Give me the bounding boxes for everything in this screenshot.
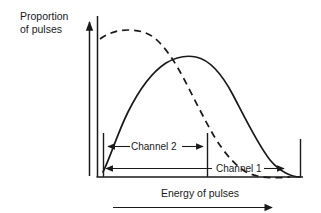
- channel-1-label: Channel 1: [216, 163, 262, 174]
- distribution-chart: Proportion of pulses Channel 2 Channel 1…: [0, 0, 321, 213]
- y-axis-label-line1: Proportion: [20, 10, 69, 22]
- y-axis-label-line2: of pulses: [20, 23, 62, 35]
- dashed-distribution-curve: [100, 30, 290, 178]
- solid-distribution-curve: [103, 56, 300, 177]
- x-axis-label: Energy of pulses: [161, 187, 239, 199]
- figure-container: Proportion of pulses Channel 2 Channel 1…: [0, 0, 321, 213]
- channel-2-label: Channel 2: [131, 141, 177, 152]
